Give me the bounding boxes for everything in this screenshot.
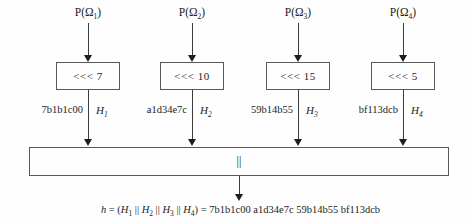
input-label-1-text: P(Ω	[75, 6, 94, 18]
hex-value-3: 59b14b55	[231, 104, 293, 115]
arrow-line-result	[239, 176, 240, 195]
h-label-2-subscript: 2	[208, 110, 212, 119]
arrow-line-input-3	[298, 23, 299, 56]
h-label-1-base: H	[96, 104, 104, 116]
arrow-line-input-4	[403, 23, 404, 56]
arrow-line-output-3	[298, 90, 299, 140]
concatenation-symbol: ||	[237, 154, 242, 169]
arrow-down-icon	[235, 194, 243, 201]
rotate-box-2-label: <<< 10	[174, 70, 209, 82]
h-label-1: H1	[96, 104, 108, 116]
formula-equals-open: = (	[106, 204, 121, 215]
input-label-2: P(Ω2)	[147, 6, 237, 18]
input-label-4-close: )	[412, 6, 416, 18]
arrow-line-output-1	[88, 90, 89, 140]
formula-close-equals: ) =	[195, 204, 210, 215]
arrow-down-icon	[84, 55, 92, 62]
formula-result-value: 7b1b1c00 a1d34e7c 59b14b55 bf113dcb	[209, 204, 380, 215]
input-label-3-text: P(Ω	[285, 6, 304, 18]
rotate-box-4: <<< 5	[371, 62, 435, 90]
h-label-3: H3	[306, 104, 318, 116]
arrow-line-output-4	[403, 90, 404, 140]
input-label-4-text: P(Ω	[390, 6, 409, 18]
input-label-3: P(Ω3)	[253, 6, 343, 18]
input-label-4: P(Ω4)	[358, 6, 448, 18]
h-label-1-subscript: 1	[104, 110, 108, 119]
arrow-line-output-2	[192, 90, 193, 140]
input-label-2-close: )	[201, 6, 205, 18]
rotate-box-3: <<< 15	[266, 62, 330, 90]
rotate-box-1-label: <<< 7	[73, 70, 102, 82]
arrow-down-icon	[84, 139, 92, 146]
formula-H4-base: H	[183, 204, 191, 215]
input-label-2-text: P(Ω	[179, 6, 198, 18]
arrow-line-input-2	[192, 23, 193, 56]
arrow-down-icon	[399, 139, 407, 146]
hash-diagram-canvas: P(Ω1) <<< 7 7b1b1c00 H1 P(Ω2) <<< 10 a1d…	[0, 0, 471, 224]
rotate-box-4-label: <<< 5	[388, 70, 417, 82]
arrow-line-input-1	[88, 23, 89, 56]
arrow-down-icon	[294, 55, 302, 62]
h-label-4-base: H	[411, 104, 419, 116]
h-label-3-base: H	[306, 104, 314, 116]
h-label-4-subscript: 4	[419, 110, 423, 119]
rotate-box-1: <<< 7	[56, 62, 120, 90]
arrow-down-icon	[188, 55, 196, 62]
rotate-box-3-label: <<< 15	[280, 70, 315, 82]
hash-result-formula: h = (H1 || H2 || H3 || H4) = 7b1b1c00 a1…	[0, 204, 471, 215]
formula-concat-sep: ||	[132, 204, 141, 215]
arrow-down-icon	[399, 55, 407, 62]
hex-value-2: a1d34e7c	[125, 104, 187, 115]
h-label-2: H2	[200, 104, 212, 116]
arrow-down-icon	[294, 139, 302, 146]
formula-concat-sep: ||	[174, 204, 183, 215]
h-label-3-subscript: 3	[314, 110, 318, 119]
hex-value-1: 7b1b1c00	[21, 104, 83, 115]
rotate-box-2: <<< 10	[160, 62, 224, 90]
formula-H3-base: H	[162, 204, 170, 215]
arrow-down-icon	[188, 139, 196, 146]
input-label-3-close: )	[307, 6, 311, 18]
concatenation-box: ||	[29, 147, 449, 176]
hex-value-4: bf113dcb	[336, 104, 398, 115]
h-label-4: H4	[411, 104, 423, 116]
h-label-2-base: H	[200, 104, 208, 116]
input-label-1-close: )	[97, 6, 101, 18]
input-label-1: P(Ω1)	[43, 6, 133, 18]
